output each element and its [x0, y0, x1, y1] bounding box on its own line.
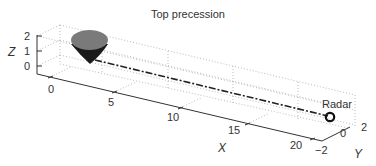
x-axis-label: X — [217, 141, 227, 155]
svg-text:20: 20 — [290, 139, 302, 151]
z-tick-labels: 2 1 0 — [24, 30, 30, 72]
top-cone — [71, 30, 108, 64]
svg-text:5: 5 — [108, 96, 114, 108]
svg-text:2: 2 — [361, 121, 367, 133]
svg-text:−2: −2 — [315, 144, 328, 156]
radar-marker — [326, 113, 334, 121]
svg-text:15: 15 — [228, 124, 240, 136]
x-axis-line — [37, 74, 322, 141]
chart-canvas: 2 1 0 Z 0 5 10 15 20 X −2 0 2 Y Radar — [0, 0, 376, 166]
svg-text:0: 0 — [48, 83, 54, 95]
svg-text:2: 2 — [24, 30, 30, 42]
x-tick-labels: 0 5 10 15 20 — [48, 83, 302, 151]
y-axis-label: Y — [354, 147, 363, 161]
svg-text:10: 10 — [167, 111, 179, 123]
z-axis-label: Z — [7, 45, 16, 59]
svg-text:0: 0 — [340, 127, 346, 139]
svg-text:1: 1 — [24, 45, 30, 57]
svg-text:0: 0 — [24, 60, 30, 72]
line-of-sight — [95, 60, 328, 116]
radar-label: Radar — [322, 98, 352, 110]
